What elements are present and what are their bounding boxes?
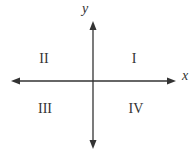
y-axis-down-arrow-icon	[90, 140, 97, 149]
y-axis-label: y	[80, 1, 89, 16]
quadrant-label-i: I	[132, 51, 137, 66]
y-axis	[90, 21, 97, 149]
quadrant-label-iii: III	[38, 101, 52, 116]
x-axis-left-arrow-icon	[11, 78, 20, 85]
y-axis-up-arrow-icon	[90, 21, 97, 30]
x-axis-right-arrow-icon	[167, 78, 176, 85]
quadrant-label-ii: II	[39, 51, 49, 66]
coordinate-plane: x y I II III IV	[0, 0, 192, 155]
quadrant-label-iv: IV	[129, 101, 144, 116]
x-axis-label: x	[181, 68, 189, 83]
